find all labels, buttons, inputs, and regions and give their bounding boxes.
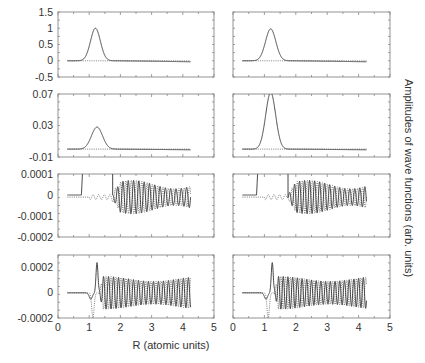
- x-tick-label: 5: [211, 321, 217, 333]
- y-tick-label: 1: [47, 22, 53, 34]
- panel-1-1: [233, 92, 390, 157]
- solid-series: [67, 127, 190, 150]
- panel-frame: [58, 12, 214, 77]
- solid-series: [67, 28, 190, 62]
- panel-frame: [58, 255, 214, 318]
- x-tick-label: 4: [180, 321, 186, 333]
- x-tick-label: 2: [293, 321, 299, 333]
- panel-grid: 1.510.50-0.50.070.03-0.010.00010-0.0001-…: [17, 6, 393, 334]
- x-tick-label: 1: [86, 321, 92, 333]
- panel-0-0: 1.510.50-0.5: [35, 6, 214, 83]
- figure: 1.510.50-0.50.070.03-0.010.00010-0.0001-…: [0, 0, 425, 363]
- panel-1-0: 0.070.03-0.01: [29, 88, 214, 163]
- y-tick-label: -0.0001: [17, 210, 53, 222]
- dotted-series: [242, 180, 366, 214]
- panel-frame: [233, 94, 390, 157]
- solid-series: [242, 92, 366, 149]
- y-tick-label: 0.07: [33, 88, 54, 100]
- solid-series: [67, 263, 190, 310]
- x-tick-label: 3: [324, 321, 330, 333]
- x-tick-label: 0: [55, 321, 61, 333]
- x-tick-label: 5: [387, 321, 393, 333]
- y-tick-label: 0: [47, 286, 53, 298]
- y-tick-label: 0.03: [33, 119, 54, 131]
- y-tick-label: 0.0002: [21, 261, 53, 273]
- panel-3-1: 012345: [230, 255, 393, 333]
- y-tick-label: -0.0002: [17, 312, 53, 324]
- panel-0-1: [233, 12, 390, 77]
- x-tick-label: 0: [230, 321, 236, 333]
- y-tick-label: 0.5: [38, 38, 53, 50]
- x-tick-label: 1: [261, 321, 267, 333]
- y-tick-label: 1.5: [38, 6, 53, 18]
- panel-frame: [233, 255, 390, 318]
- y-tick-label: -0.0002: [17, 231, 53, 243]
- x-tick-label: 2: [117, 321, 123, 333]
- y-tick-label: 0: [47, 189, 53, 201]
- solid-series: [242, 29, 366, 62]
- y-tick-label: -0.5: [35, 71, 53, 83]
- x-axis-title: R (atomic units): [132, 339, 209, 351]
- x-tick-label: 3: [149, 321, 155, 333]
- x-tick-label: 4: [356, 321, 362, 333]
- solid-series: [67, 69, 190, 214]
- panel-frame: [233, 12, 390, 77]
- y-tick-label: 0: [47, 54, 53, 66]
- y-tick-label: -0.01: [29, 151, 53, 163]
- y-tick-label: 0.0001: [21, 168, 53, 180]
- panel-frame: [58, 94, 214, 157]
- y-axis-title: Amplitudes of wave functions (arb. units…: [403, 79, 415, 277]
- panel-3-0: 0.00020-0.0002012345: [17, 255, 217, 333]
